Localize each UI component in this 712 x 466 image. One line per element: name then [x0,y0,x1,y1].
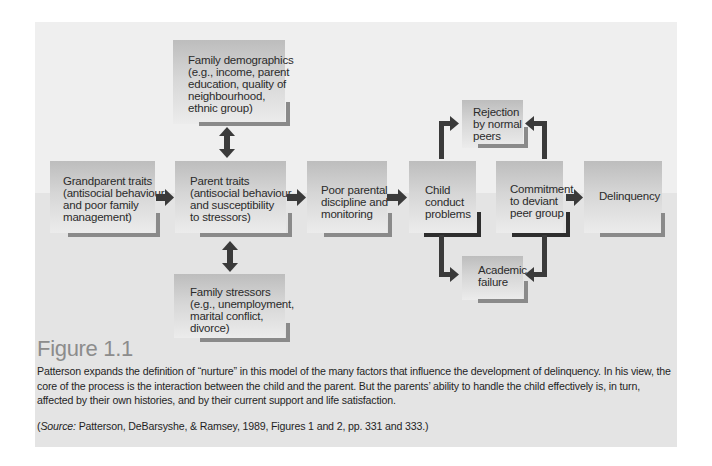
double-arrow-vertical-icon [222,241,238,272]
source-label: Source: [40,420,75,432]
elbow-arrow-icon [525,235,547,282]
figure-title: Figure 1.1 [37,336,133,362]
figure-caption: Patterson expands the definition of “nur… [37,364,677,408]
double-arrow-vertical-icon [219,127,235,158]
elbow-arrow-icon [439,235,459,282]
elbow-arrow-icon [439,116,459,159]
arrow-right-icon [287,189,306,206]
source-text: Patterson, DeBarsyshe, & Ramsey, 1989, F… [76,420,429,432]
arrow-right-icon [156,189,174,206]
arrow-right-icon [387,189,407,206]
figure-source: (Source: Patterson, DeBarsyshe, & Ramsey… [37,420,429,432]
arrow-right-icon [566,189,583,206]
elbow-arrow-icon [525,116,547,159]
